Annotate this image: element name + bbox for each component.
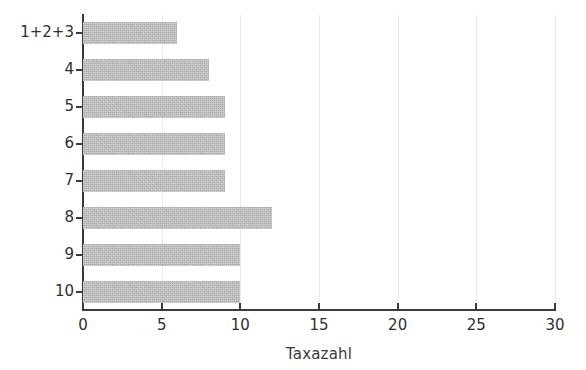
x-tick-mark bbox=[239, 303, 241, 311]
plot-area bbox=[83, 15, 555, 310]
y-tick-label: 4 bbox=[0, 62, 74, 77]
gridline-x-20 bbox=[398, 15, 399, 310]
y-tick-label: 5 bbox=[0, 99, 74, 114]
y-tick-mark bbox=[76, 69, 83, 71]
x-tick-label: 5 bbox=[132, 318, 192, 333]
bar bbox=[83, 170, 225, 192]
bar bbox=[83, 96, 225, 118]
x-tick-mark bbox=[554, 303, 556, 311]
bar-chart: Plana 1+2+345678910 Taxazahl 05101520253… bbox=[0, 0, 586, 370]
x-axis-title-label: Taxazahl bbox=[286, 345, 352, 363]
y-tick-mark bbox=[76, 217, 83, 219]
x-tick-label: 0 bbox=[53, 318, 113, 333]
x-tick-mark bbox=[475, 303, 477, 311]
bar bbox=[83, 244, 240, 266]
bar bbox=[83, 22, 177, 44]
y-tick-mark bbox=[76, 291, 83, 293]
y-tick-label: 9 bbox=[0, 247, 74, 262]
x-tick-label: 15 bbox=[289, 318, 349, 333]
gridline-x-30 bbox=[555, 15, 556, 310]
x-tick-mark bbox=[318, 303, 320, 311]
x-tick-label: 10 bbox=[210, 318, 270, 333]
x-tick-mark bbox=[82, 303, 84, 311]
y-tick-label: 6 bbox=[0, 136, 74, 151]
x-tick-mark bbox=[397, 303, 399, 311]
gridline-x-10 bbox=[240, 15, 241, 310]
x-tick-label: 30 bbox=[525, 318, 585, 333]
y-tick-mark bbox=[76, 106, 83, 108]
x-tick-label: 25 bbox=[446, 318, 506, 333]
x-tick-mark bbox=[161, 303, 163, 311]
y-tick-mark bbox=[76, 32, 83, 34]
y-tick-mark bbox=[76, 180, 83, 182]
x-axis-title: Taxazahl bbox=[83, 345, 555, 363]
bar bbox=[83, 133, 225, 155]
y-tick-label: 1+2+3 bbox=[0, 25, 74, 40]
y-tick-label: 7 bbox=[0, 173, 74, 188]
x-tick-label: 20 bbox=[368, 318, 428, 333]
y-tick-label: 8 bbox=[0, 210, 74, 225]
bar bbox=[83, 281, 240, 303]
y-tick-mark bbox=[76, 254, 83, 256]
y-tick-mark bbox=[76, 143, 83, 145]
gridline-x-15 bbox=[319, 15, 320, 310]
bar bbox=[83, 59, 209, 81]
y-tick-label: 10 bbox=[0, 284, 74, 299]
bar bbox=[83, 207, 272, 229]
gridline-x-25 bbox=[476, 15, 477, 310]
